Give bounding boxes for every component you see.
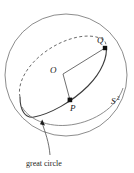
caption-great-circle: great circle (26, 159, 62, 168)
label-point-p: P (69, 103, 76, 113)
sphere-great-circle-figure: O P Q S 2 great circle (0, 0, 134, 173)
label-point-q: Q (97, 35, 104, 45)
point-p-marker (68, 98, 73, 103)
great-circle-back-arc-dashed (19, 36, 106, 97)
annotation-leader-line (43, 124, 51, 155)
radius-line-to-q (63, 48, 105, 74)
label-sphere-s: S (111, 96, 116, 106)
annotation-arrow-icon (40, 120, 45, 126)
radius-line-to-p (63, 74, 70, 100)
label-sphere-superscript: 2 (117, 95, 120, 101)
sphere-outline-circle (5, 14, 127, 136)
great-circle-front-arc (20, 46, 106, 117)
point-q-marker (103, 46, 107, 50)
label-center-o: O (50, 65, 57, 75)
